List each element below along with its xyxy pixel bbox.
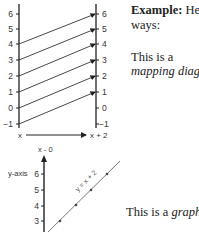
svg-text:2: 2	[8, 71, 13, 81]
mapping-arrows	[19, 14, 95, 124]
line-equation-label: y = x + 2	[74, 169, 99, 194]
svg-text:1: 1	[8, 87, 13, 97]
right-tick-labels: 6 5 4 3 2 1 0 −1	[99, 9, 109, 129]
svg-text:2: 2	[102, 71, 107, 81]
svg-text:5: 5	[8, 24, 13, 34]
svg-text:1: 1	[102, 87, 107, 97]
graph: x - 0 y-axis 6 5 4 3 y = x + 2	[0, 140, 130, 232]
mapping-diagram: 6 5 4 3 2 1 0 −1 6 5 4 3 2 1 0 −1	[0, 0, 120, 140]
svg-text:6: 6	[8, 9, 13, 19]
x-label: x	[18, 131, 22, 140]
mapping-arrow	[19, 60, 95, 92]
left-tick-labels: 6 5 4 3 2 1 0 −1	[3, 9, 13, 129]
svg-text:0: 0	[102, 103, 107, 113]
mapping-arrow	[19, 76, 95, 108]
y-axis-label: y-axis	[8, 169, 28, 178]
y-axis-arrow-icon	[41, 155, 47, 162]
x-zero-label: x - 0	[38, 145, 53, 154]
svg-text:4: 4	[34, 201, 39, 211]
mapping-arrow	[19, 92, 95, 124]
svg-text:6: 6	[34, 169, 39, 179]
svg-text:0: 0	[8, 103, 13, 113]
svg-text:−1: −1	[99, 119, 109, 129]
x-plus-2-label: x + 2	[90, 131, 108, 140]
textbook-page: 6 5 4 3 2 1 0 −1 6 5 4 3 2 1 0 −1	[0, 0, 199, 232]
ways-text: ways:	[131, 18, 160, 32]
mapping-arrow	[19, 29, 95, 60]
mapping-arrow	[19, 44, 95, 76]
svg-text:3: 3	[8, 55, 13, 65]
mapping-caption-line2: mapping diagr	[131, 64, 199, 78]
graph-caption: This is a graph.	[126, 205, 199, 219]
example-heading: Example: He	[131, 3, 199, 17]
svg-text:−1: −1	[3, 119, 13, 129]
svg-text:5: 5	[102, 24, 107, 34]
svg-text:4: 4	[102, 39, 107, 49]
mapping-caption-line1: This is a	[131, 50, 173, 64]
graph-tick-labels: 6 5 4 3	[34, 169, 39, 226]
svg-text:3: 3	[102, 55, 107, 65]
svg-text:4: 4	[8, 39, 13, 49]
svg-text:5: 5	[34, 185, 39, 195]
svg-text:3: 3	[34, 216, 39, 226]
mapping-arrow	[19, 14, 95, 44]
svg-text:6: 6	[102, 9, 107, 19]
